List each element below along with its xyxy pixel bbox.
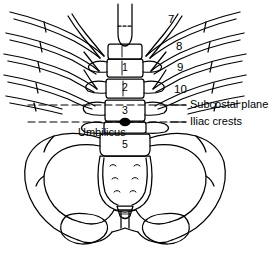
rib-label-7: 7: [168, 14, 174, 26]
vertebra-label-1: 1: [122, 62, 128, 73]
iliac-crests-label: Iliac crests: [190, 116, 242, 127]
pelvis: [25, 133, 226, 244]
vertebra-label-5: 5: [122, 139, 128, 150]
subcostal-plane-label: Subcostal plane: [190, 99, 268, 110]
left-rib-cage: [4, 12, 104, 114]
vertebra-label-3: 3: [122, 105, 128, 116]
rib-label-10: 10: [174, 84, 187, 96]
anatomical-figure: 7 8 9 10 1 2 3 5 Subcostal plane Iliac c…: [0, 0, 274, 258]
rib-label-9: 9: [177, 62, 183, 74]
umbilicus-label: Umbilicus: [78, 127, 126, 138]
skeleton-line-drawing: [0, 0, 274, 258]
rib-label-8: 8: [176, 41, 182, 53]
vertebra-label-2: 2: [122, 82, 128, 93]
sternum-xiphoid: [118, 4, 132, 46]
